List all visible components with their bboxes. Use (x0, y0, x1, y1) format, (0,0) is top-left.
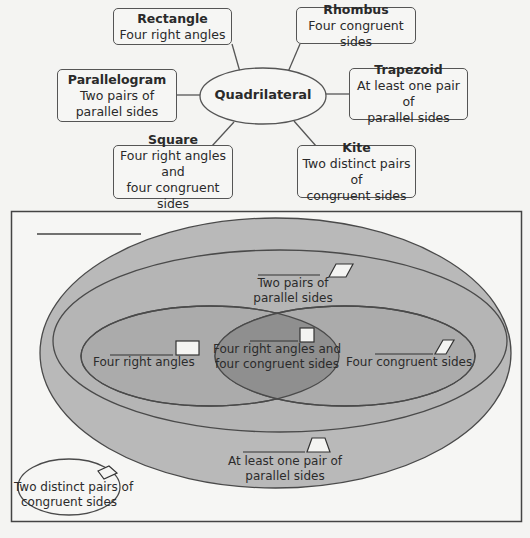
label-line: Four congruent sides (346, 355, 466, 370)
label-line: parallel sides (225, 469, 345, 484)
label-line: Four right angles (93, 355, 193, 370)
kite-label: Two distinct pairs of congruent sides (14, 480, 124, 510)
rectangle-icon (176, 341, 199, 355)
label-line: congruent sides (14, 495, 124, 510)
trapezoid-label: At least one pair of parallel sides (225, 454, 345, 484)
parallelogram-label: Two pairs of parallel sides (243, 276, 343, 306)
label-line: At least one pair of (225, 454, 345, 469)
label-line: Four right angles and (212, 342, 342, 357)
label-line: Two distinct pairs of (14, 480, 124, 495)
square-icon (300, 328, 314, 342)
label-line: Two pairs of (243, 276, 343, 291)
rhombus-label: Four congruent sides (346, 355, 466, 370)
square-label: Four right angles and four congruent sid… (212, 342, 342, 372)
rectangle-label: Four right angles (93, 355, 193, 370)
label-line: four congruent sides (212, 357, 342, 372)
label-line: parallel sides (243, 291, 343, 306)
